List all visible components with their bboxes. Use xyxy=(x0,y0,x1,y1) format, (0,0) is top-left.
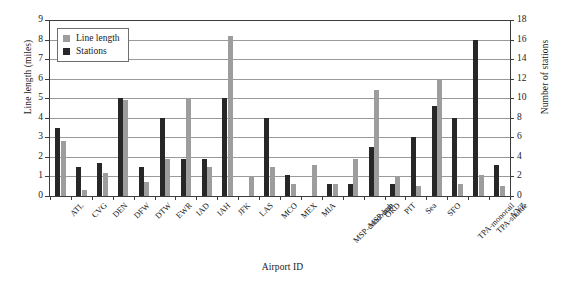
y-axis-right-tick xyxy=(510,40,514,41)
x-axis-tick xyxy=(343,196,344,200)
x-axis-tick xyxy=(489,196,490,200)
y-axis-left-tick-label: 3 xyxy=(17,132,43,142)
x-axis-title: Airport ID xyxy=(0,262,565,272)
bar-chart-figure: Line length (miles) Number of stations A… xyxy=(0,0,565,286)
legend-label-line-length: Line length xyxy=(76,34,120,44)
y-axis-left-tick-label: 7 xyxy=(17,54,43,64)
y-axis-right-tick xyxy=(510,79,514,80)
x-axis-tick xyxy=(196,196,197,200)
x-axis-tick xyxy=(217,196,218,200)
y-axis-left-tick-label: 5 xyxy=(17,93,43,103)
y-axis-left-tick-label: 1 xyxy=(17,171,43,181)
x-axis-category-label: Sea xyxy=(423,201,438,216)
x-axis-tick xyxy=(71,196,72,200)
x-axis-category-label: EWR xyxy=(174,201,193,220)
y-axis-right-tick xyxy=(510,20,514,21)
chart-legend: Line length Stations xyxy=(57,28,129,62)
x-axis-category-label: IAH xyxy=(215,201,232,218)
y-axis-right-tick-label: 10 xyxy=(517,93,543,103)
y-axis-right-tick-label: 8 xyxy=(517,113,543,123)
x-axis-tick xyxy=(280,196,281,200)
y-axis-left-tick-label: 9 xyxy=(17,15,43,25)
x-axis-category-label: JFK xyxy=(236,201,252,217)
x-axis-category-label: MEX xyxy=(300,201,319,220)
x-axis-tick xyxy=(468,196,469,200)
y-axis-left-tick xyxy=(45,59,49,60)
y-axis-left-tick xyxy=(45,79,49,80)
x-axis-tick xyxy=(385,196,386,200)
y-axis-right-tick-label: 14 xyxy=(517,54,543,64)
y-axis-left-tick-label: 0 xyxy=(17,191,43,201)
x-axis-tick xyxy=(364,196,365,200)
y-axis-right-tick-label: 6 xyxy=(517,132,543,142)
y-axis-right-tick xyxy=(510,137,514,138)
x-axis-tick xyxy=(447,196,448,200)
x-axis-tick xyxy=(426,196,427,200)
x-axis-tick xyxy=(301,196,302,200)
x-axis-tick xyxy=(113,196,114,200)
y-axis-right-tick-label: 16 xyxy=(517,35,543,45)
y-axis-right-tick-label: 4 xyxy=(517,152,543,162)
x-axis-tick xyxy=(322,196,323,200)
x-axis-category-label: PIT xyxy=(403,201,418,216)
y-axis-left-tick xyxy=(45,98,49,99)
x-axis-tick xyxy=(155,196,156,200)
x-axis-tick xyxy=(405,196,406,200)
legend-item-stations: Stations xyxy=(63,45,120,58)
x-axis-tick xyxy=(50,196,51,200)
y-axis-right-tick xyxy=(510,98,514,99)
y-axis-left-tick-label: 8 xyxy=(17,35,43,45)
x-axis-tick xyxy=(238,196,239,200)
y-axis-left-tick xyxy=(45,118,49,119)
y-axis-left-tick xyxy=(45,157,49,158)
x-axis-tick xyxy=(175,196,176,200)
legend-swatch-stations xyxy=(63,48,70,55)
y-axis-right-tick-label: 2 xyxy=(517,171,543,181)
x-axis-category-label: DFW xyxy=(133,201,152,220)
y-axis-right-tick xyxy=(510,196,514,197)
y-axis-left-tick-label: 2 xyxy=(17,152,43,162)
x-axis-tick xyxy=(92,196,93,200)
legend-item-line-length: Line length xyxy=(63,32,120,45)
legend-label-stations: Stations xyxy=(76,47,107,57)
x-axis-category-label: SFO xyxy=(445,201,462,218)
y-axis-right-tick xyxy=(510,157,514,158)
y-axis-left-tick xyxy=(45,20,49,21)
x-axis-category-label: IAD xyxy=(194,201,211,218)
y-axis-right-tick xyxy=(510,118,514,119)
y-axis-right-tick xyxy=(510,176,514,177)
bar-line-length xyxy=(500,186,505,196)
y-axis-left-tick-label: 6 xyxy=(17,74,43,84)
y-axis-left-tick xyxy=(45,176,49,177)
x-axis-category-label: LAS xyxy=(257,201,274,218)
legend-swatch-line-length xyxy=(63,35,70,42)
x-axis-tick xyxy=(259,196,260,200)
y-axis-left-tick xyxy=(45,196,49,197)
x-axis-category-label: MIA xyxy=(320,201,338,219)
y-axis-right-tick xyxy=(510,59,514,60)
y-axis-right-tick-label: 18 xyxy=(517,15,543,25)
x-axis-tick xyxy=(134,196,135,200)
y-axis-left-tick xyxy=(45,137,49,138)
x-axis-category-label: CVG xyxy=(90,201,109,220)
x-axis-category-label: ATL xyxy=(69,201,86,218)
y-axis-right-tick-label: 0 xyxy=(517,191,543,201)
y-axis-right-tick-label: 12 xyxy=(517,74,543,84)
x-axis-category-label: MCO xyxy=(279,201,299,221)
y-axis-left-tick xyxy=(45,40,49,41)
bar-stations xyxy=(494,165,499,196)
x-axis-category-label: DTW xyxy=(154,201,174,221)
y-axis-left-tick-label: 4 xyxy=(17,113,43,123)
x-axis-category-label: DEN xyxy=(111,201,129,219)
